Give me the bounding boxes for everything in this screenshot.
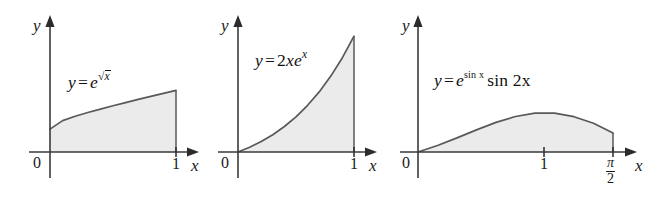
y-axis-label-2: y [221,16,229,36]
x-tick-label-zero-2: 0 [221,154,229,172]
equation-label-1: y=e√x [68,71,111,93]
equation-label-3: y=esin xsin 2x [434,70,531,91]
eq3-lhs: y [434,70,442,90]
eq1-exponent: √x [98,70,111,82]
x-tick-label-pi-over-two-3: π 2 [606,155,615,185]
eq3-factor: sin 2x [484,70,531,90]
panel-2-plot [210,0,430,198]
y-axis-arrow-2 [233,15,242,27]
eq1-lhs: y [68,72,76,92]
eq2-equals: = [263,50,277,70]
y-axis-label-3: y [402,16,410,36]
panel-1-area-under-exp-sqrt: y x 0 1 y=e√x [0,0,222,198]
three-panel-math-figure: y x 0 1 y=e√x y x 0 1 y= [0,0,664,198]
eq2-base: e [294,50,302,70]
shaded-region-1 [50,90,176,152]
two-denominator: 2 [606,172,615,187]
equation-label-2: y=2xex [255,49,307,71]
y-axis-arrow-1 [45,15,54,27]
y-axis-label-1: y [33,16,41,36]
x-tick-label-one-3: 1 [540,155,548,173]
pi-numerator: π [606,156,615,172]
panel-3-plot [400,0,664,198]
eq2-lhs: y [255,50,263,70]
eq1-base: e [90,72,98,92]
eq3-equals: = [442,70,456,90]
x-axis-label-2: x [369,156,377,176]
x-tick-label-zero-1: 0 [33,154,41,172]
panel-2-area-under-2xe-x: y x 0 1 y=2xex [210,0,430,198]
eq3-exponent: sin x [464,69,484,80]
eq1-equals: = [76,72,90,92]
shaded-region-3 [418,113,613,152]
x-tick-label-one-1: 1 [172,155,180,173]
x-axis-label-1: x [191,156,199,176]
eq2-coefficient: 2 [277,50,286,70]
panel-3-area-under-esinx-sin2x: y x 0 1 π 2 y=esin xsin 2x [400,0,664,198]
x-axis-label-3: x [635,156,643,176]
x-tick-label-zero-3: 0 [402,154,410,172]
eq3-base: e [456,70,464,90]
x-tick-label-one-2: 1 [350,155,358,173]
y-axis-arrow-3 [413,15,422,27]
eq2-exponent: x [302,48,307,60]
eq2-variable: x [286,50,294,70]
